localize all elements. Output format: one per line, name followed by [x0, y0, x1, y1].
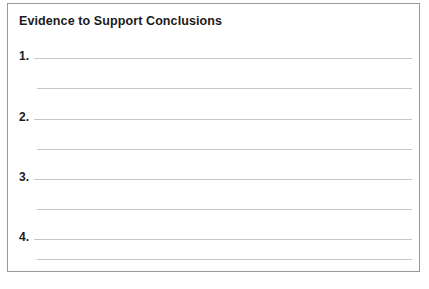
item-number: 4. [19, 230, 29, 244]
item-number: 2. [19, 110, 29, 124]
writing-line[interactable] [34, 179, 412, 180]
worksheet-frame: Evidence to Support Conclusions 1. 2. 3.… [7, 3, 420, 272]
writing-line[interactable] [37, 149, 412, 150]
writing-line[interactable] [37, 259, 412, 260]
writing-line[interactable] [34, 119, 412, 120]
item-number: 3. [19, 170, 29, 184]
item-number: 1. [19, 49, 29, 63]
writing-line[interactable] [37, 88, 412, 89]
writing-line[interactable] [34, 58, 412, 59]
writing-line[interactable] [37, 209, 412, 210]
page-title: Evidence to Support Conclusions [19, 14, 222, 28]
writing-line[interactable] [34, 239, 412, 240]
